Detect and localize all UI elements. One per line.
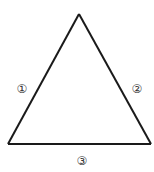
triangle-left-side (8, 14, 79, 144)
triangle-diagram: ① ② ③ (0, 0, 154, 172)
side-label-2: ② (132, 82, 143, 96)
side-label-1: ① (17, 82, 28, 96)
side-label-3: ③ (77, 154, 88, 168)
triangle-right-side (79, 14, 151, 144)
